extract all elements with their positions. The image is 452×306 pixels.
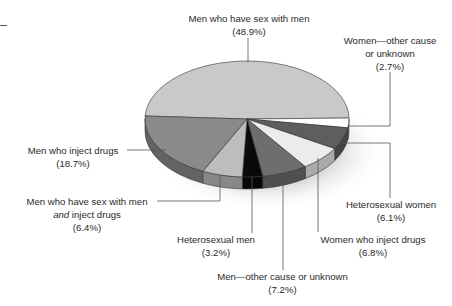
label-hetero-men: Heterosexual men (3.2%) [166, 233, 266, 259]
label-text: Men who inject drugs [18, 144, 128, 157]
label-value: (48.9%) [170, 25, 328, 38]
label-text: and inject drugs [14, 208, 160, 221]
label-value: (7.2%) [205, 283, 360, 296]
label-text: Heterosexual men [166, 233, 266, 246]
label-text: Heterosexual women [336, 198, 446, 211]
label-value: (3.2%) [166, 246, 266, 259]
label-emphasis: and [53, 209, 69, 220]
label-msm: Men who have sex with men (48.9%) [170, 12, 328, 38]
label-text: Men—other cause or unknown [205, 270, 360, 283]
pie-side-heterosexual-men [242, 176, 262, 189]
label-text: Men who have sex with men [170, 12, 328, 25]
label-women-other: Women—other cause or unknown (2.7%) [330, 34, 450, 73]
label-hetero-women: Heterosexual women (6.1%) [336, 198, 446, 224]
label-men-other: Men—other cause or unknown (7.2%) [205, 270, 360, 296]
pie-slice-men-who-have-sex-with-men [145, 61, 349, 119]
label-value: (18.7%) [18, 157, 128, 170]
label-text: Women who inject drugs [308, 233, 438, 246]
label-text: inject drugs [69, 209, 121, 220]
label-msm-idu: Men who have sex with men and inject dru… [14, 195, 160, 234]
label-value: (6.1%) [336, 211, 446, 224]
label-text: or unknown [330, 47, 450, 60]
pie-top [145, 61, 349, 177]
label-value: (6.8%) [308, 246, 438, 259]
label-widu: Women who inject drugs (6.8%) [308, 233, 438, 259]
label-value: (2.7%) [330, 60, 450, 73]
label-midu: Men who inject drugs (18.7%) [18, 144, 128, 170]
label-text: Women—other cause [330, 34, 450, 47]
label-text: Men who have sex with men [14, 195, 160, 208]
label-value: (6.4%) [14, 221, 160, 234]
